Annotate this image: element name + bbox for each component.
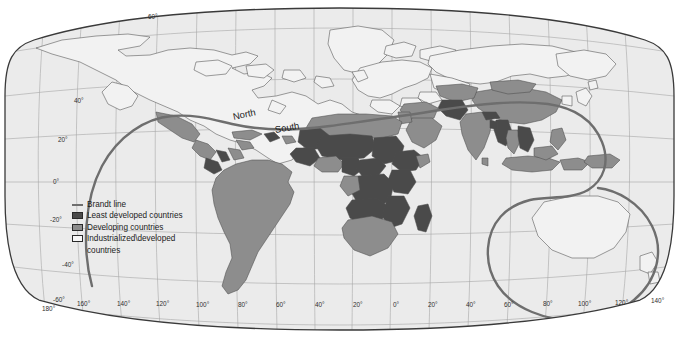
lon-label-140e: 140°	[651, 297, 664, 304]
legend-label-brandt-line: Brandt line	[87, 199, 126, 210]
lon-label-180w: 180°	[42, 305, 55, 312]
developing-swatch-icon	[72, 224, 83, 231]
lon-label-20e: 20°	[428, 301, 438, 308]
lon-label-160w: 160°	[77, 300, 90, 307]
legend-label-least-developed: Least developed countries	[87, 210, 183, 221]
legend-item-industrialized[interactable]: Industrialized\developed	[72, 233, 222, 244]
brandt-line-swatch-icon	[72, 201, 83, 208]
lon-label-80w: 80°	[238, 301, 248, 308]
lon-label-140w: 140°	[117, 300, 130, 307]
lat-label-40n: 40°	[74, 97, 84, 104]
world-map: 60° 40° 20° 0° -20° -40° -60° 180° 160° …	[0, 0, 679, 361]
lon-label-120w: 120°	[156, 300, 169, 307]
lon-label-80e: 80°	[543, 300, 553, 307]
lon-label-100e: 100°	[578, 300, 591, 307]
legend-item-industrialized-cont: countries	[72, 245, 222, 256]
lat-label-20n: 20°	[58, 136, 68, 143]
legend-label-industrialized-cont: countries	[87, 245, 120, 256]
lat-label-40s: -40°	[62, 261, 74, 268]
lon-label-20w: 20°	[353, 301, 363, 308]
legend-label-industrialized: Industrialized\developed	[87, 233, 175, 244]
legend-label-developing: Developing countries	[87, 222, 163, 233]
least-developed-swatch-icon	[72, 212, 83, 219]
legend-item-brandt-line[interactable]: Brandt line	[72, 199, 222, 210]
legend-item-least-developed[interactable]: Least developed countries	[72, 210, 222, 221]
lat-label-0: 0°	[53, 178, 59, 185]
lat-label-60s: -60°	[53, 296, 65, 303]
lat-label-20s: -20°	[50, 216, 62, 223]
lon-label-60w: 60°	[276, 301, 286, 308]
lon-label-40w: 40°	[315, 301, 325, 308]
lon-label-0: 0°	[393, 301, 399, 308]
industrialized-swatch-icon	[72, 235, 83, 242]
lon-label-120e: 120°	[615, 299, 628, 306]
lon-label-60e: 60°	[504, 301, 514, 308]
lat-label-60n: 60°	[148, 13, 158, 20]
lon-label-40e: 40°	[466, 301, 476, 308]
lon-label-100w: 100°	[196, 301, 209, 308]
legend-item-developing[interactable]: Developing countries	[72, 222, 222, 233]
map-legend: Brandt line Least developed countries De…	[72, 199, 222, 256]
